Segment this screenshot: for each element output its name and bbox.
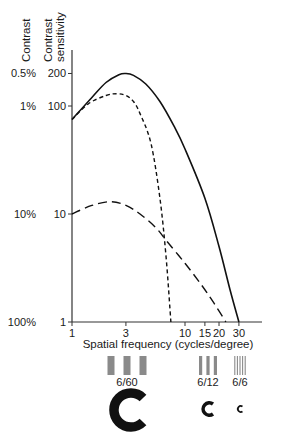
curve-long-dash (72, 202, 226, 322)
x-axis-title: Spatial frequency (cycles/degree) (83, 338, 254, 350)
x-tick-label: 1 (69, 327, 75, 339)
grating-label-6-12: 6/12 (197, 376, 218, 388)
grating-6-6-bar (245, 356, 246, 375)
grating-6-6-bar (237, 356, 238, 375)
landolt-c-large (114, 393, 143, 427)
grating-illustrations (108, 356, 246, 375)
y-tick-label: 1 (60, 316, 66, 328)
grating-6-60-bar (140, 356, 147, 375)
y-secondary-tick-label: 10% (14, 208, 36, 220)
grating-6-60-bar (124, 356, 131, 375)
landolt-c-medium (203, 403, 213, 415)
axes: 1100%1010%1001%2000.5%1310152030 (8, 50, 262, 339)
grating-6-6-bar (234, 356, 235, 375)
curves (72, 73, 239, 322)
landolt-c-small (238, 406, 243, 412)
y-axis-title-sensitivity-2: sensitivity (54, 12, 66, 62)
y-secondary-tick-label: 0.5% (11, 67, 36, 79)
grating-6-6-bar (239, 356, 240, 375)
y-tick-label: 100 (48, 100, 66, 112)
y-secondary-tick-label: 1% (20, 100, 36, 112)
grating-6-12-bar (206, 356, 209, 375)
y-axis-title-contrast: Contrast (20, 18, 32, 62)
grating-label-6-60: 6/60 (116, 376, 137, 388)
grating-label-6-6: 6/6 (232, 376, 247, 388)
y-tick-label: 200 (48, 67, 66, 79)
grating-6-12-bar (199, 356, 202, 375)
y-secondary-tick-label: 100% (8, 316, 36, 328)
grating-6-6-bar (242, 356, 243, 375)
curve-solid (72, 73, 239, 322)
grating-6-60-bar (108, 356, 115, 375)
y-axis-title-sensitivity: Contrast (42, 18, 54, 62)
contrast-sensitivity-chart: Contrast Contrast sensitivity 1100%1010%… (0, 0, 294, 441)
y-tick-label: 10 (54, 208, 66, 220)
grating-6-12-bar (214, 356, 217, 375)
